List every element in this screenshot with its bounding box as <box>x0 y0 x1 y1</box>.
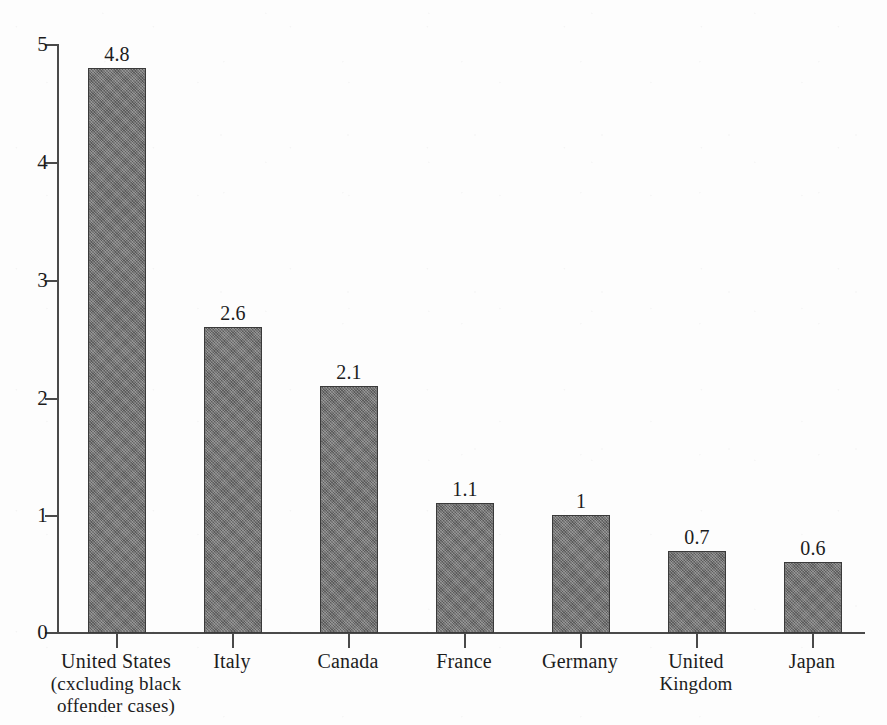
bar-united-kingdom <box>668 551 726 633</box>
y-axis-tick-label-4: 4 <box>8 152 48 173</box>
category-label-france: France <box>404 650 524 673</box>
bar-germany <box>552 515 610 633</box>
bar-canada <box>320 386 378 633</box>
bar-value-france: 1.1 <box>435 479 495 499</box>
x-axis-tick-7 <box>812 634 814 648</box>
x-axis-tick-3 <box>348 634 350 648</box>
bar-japan <box>784 562 842 633</box>
bar-value-united-states: 4.8 <box>87 44 147 64</box>
bar-value-canada: 2.1 <box>319 362 379 382</box>
bar-france <box>436 503 494 633</box>
y-axis-tick-label-5: 5 <box>8 34 48 55</box>
category-label-canada: Canada <box>288 650 408 673</box>
bar-chart-figure: 5 4 3 2 1 0 4.8 2.6 2.1 1.1 1 0.7 0.6 Un… <box>0 0 887 725</box>
y-axis-line <box>57 44 59 634</box>
category-label-line1: France <box>436 650 492 672</box>
category-label-line1: Canada <box>317 650 378 672</box>
y-axis-tick-label-2: 2 <box>8 388 48 409</box>
category-label-line3: offender cases) <box>26 695 206 717</box>
category-label-germany: Germany <box>520 650 640 673</box>
category-label-united-kingdom: United Kingdom <box>636 650 756 695</box>
bar-italy <box>204 327 262 633</box>
category-label-line1: United <box>668 650 724 672</box>
bar-value-united-kingdom: 0.7 <box>667 527 727 547</box>
y-axis-tick-label-3: 3 <box>8 270 48 291</box>
category-label-japan: Japan <box>752 650 872 673</box>
x-axis-tick-1 <box>116 634 118 648</box>
bar-value-japan: 0.6 <box>783 538 843 558</box>
bar-united-states <box>88 68 146 633</box>
y-axis-tick-label-1: 1 <box>8 505 48 526</box>
category-label-line1: Italy <box>213 650 251 672</box>
x-axis-tick-2 <box>232 634 234 648</box>
bar-value-germany: 1 <box>551 491 611 511</box>
category-label-italy: Italy <box>172 650 292 673</box>
bar-value-italy: 2.6 <box>203 303 263 323</box>
category-label-line1: Japan <box>789 650 836 672</box>
category-label-line1: Germany <box>542 650 618 672</box>
category-label-line2: (cxcluding black <box>26 673 206 695</box>
x-axis-tick-6 <box>696 634 698 648</box>
x-axis-tick-5 <box>580 634 582 648</box>
x-axis-tick-4 <box>464 634 466 648</box>
category-label-line2: Kingdom <box>636 673 756 695</box>
category-label-line1: United States <box>61 650 171 672</box>
y-axis-tick-label-0: 0 <box>8 622 48 643</box>
